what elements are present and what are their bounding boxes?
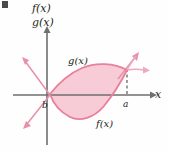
f-curve-right-tail [127, 56, 136, 70]
x-axis-label: x [155, 89, 161, 100]
g-curve-right-tail [127, 69, 144, 70]
curve-label-g: g(x) [68, 56, 88, 66]
g-curve-right-tail-arrowhead [143, 67, 150, 74]
secant-line-lower-left-arrowhead [23, 121, 31, 129]
x-bound-label-a: a [123, 100, 128, 109]
y-axis-label-gx: g(x) [32, 17, 54, 28]
curve-label-f: f(x) [96, 119, 113, 129]
x-bound-label-b: b [42, 101, 48, 110]
area-between-curves-figure: f(x) g(x) g(x) f(x) b a x [0, 0, 169, 153]
graph-canvas [0, 0, 169, 153]
y-axis-label-fx: f(x) [32, 3, 51, 14]
